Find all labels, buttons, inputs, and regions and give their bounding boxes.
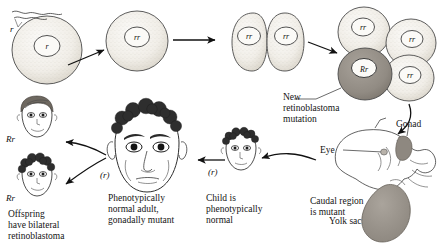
stage-twocell-art	[232, 13, 304, 71]
stage-fourcell-art	[338, 7, 436, 101]
eye-label: Eye	[320, 145, 335, 156]
adult-genotype-label: (r)	[100, 170, 110, 180]
leader-eye	[343, 150, 383, 152]
yolk-sac-label: Yolk sac	[329, 216, 362, 227]
child-face-art	[221, 127, 261, 170]
offspring-bottom-genotype-label: Rr	[6, 193, 15, 203]
new-mutation-caption: New retinoblastoma mutation	[283, 92, 345, 125]
offspring-caption: Offspring have bilateral retinoblastoma	[8, 209, 94, 242]
offspring-bottom-face-art	[17, 153, 57, 196]
adult-face-art	[107, 98, 187, 192]
arrow-twocell-to-fourcell	[308, 42, 337, 53]
twocell-nucleus-label-2: rr	[283, 32, 290, 41]
twocell-nucleus-label-1: rr	[246, 32, 253, 41]
fourcell-nucleus-label-3: rr	[407, 71, 414, 80]
onecell-nucleus-label: rr	[134, 33, 141, 42]
retinoblastoma-figure: r rr rr rr rr rr rr Rr	[0, 0, 447, 252]
leader-gonad-upper	[375, 118, 386, 128]
adult-caption: Phenotypically normal adult, gonadally m…	[108, 193, 194, 226]
fourcell-nucleus-label-2: rr	[409, 35, 416, 44]
sperm-genotype-label: r	[10, 24, 14, 34]
child-genotype-label: (r)	[208, 167, 218, 177]
fourcell-nucleus-label-1: rr	[360, 23, 367, 32]
child-caption: Child is phenotypically normal	[206, 193, 282, 226]
embryo-eye	[381, 149, 388, 155]
embryo-gonad	[396, 136, 412, 160]
offspring-top-genotype-label: Rr	[6, 134, 15, 144]
arrow-embryo-to-child	[262, 154, 316, 160]
arrow-adult-to-offspring-top	[66, 142, 106, 155]
offspring-top-face-art	[17, 96, 57, 137]
gonad-label: Gonad	[396, 119, 421, 130]
caudal-region-caption: Caudal region is mutant	[310, 196, 390, 218]
fourcell-mutant-nucleus-label: Rr	[359, 65, 369, 74]
